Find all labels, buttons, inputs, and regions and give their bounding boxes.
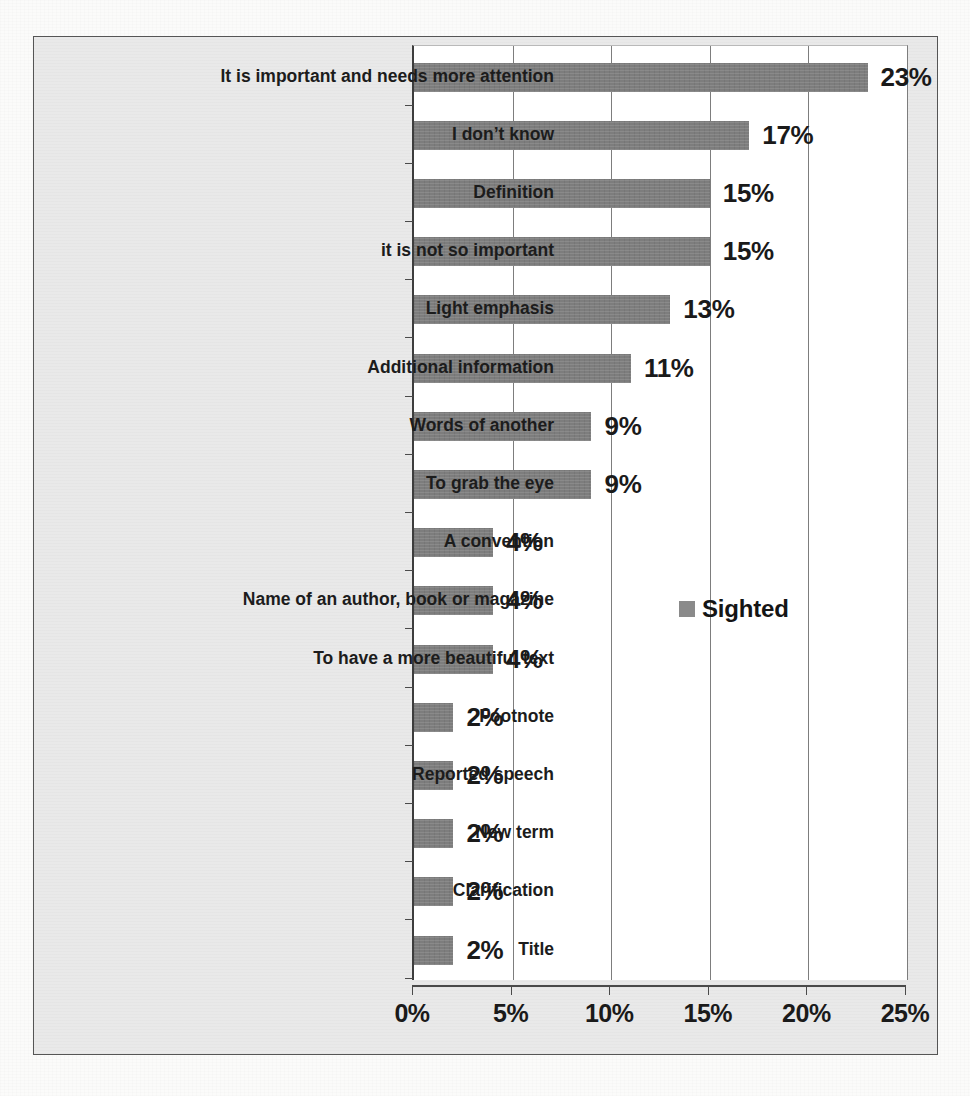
chart-legend: Sighted — [679, 595, 789, 623]
x-axis-tick-label: 25% — [860, 999, 950, 1028]
category-label: To have a more beautiful text — [194, 644, 554, 673]
category-label: Additional information — [194, 353, 554, 382]
bar-value-label: 11% — [644, 353, 694, 384]
category-label: Title — [194, 935, 554, 964]
bar-value-label: 9% — [604, 411, 641, 442]
x-axis-tick-label: 5% — [466, 999, 556, 1028]
y-axis-tick — [405, 803, 413, 804]
bar-value-label: 9% — [604, 469, 641, 500]
gridline-20% — [808, 46, 809, 980]
x-axis-tick — [609, 985, 610, 995]
category-label: Name of an author, book or magazine — [194, 585, 554, 614]
x-axis-tick — [806, 985, 807, 995]
category-label: New term — [194, 818, 554, 847]
y-axis-tick — [405, 163, 413, 164]
y-axis-tick — [405, 628, 413, 629]
category-label: Words of another — [194, 411, 554, 440]
y-axis-tick — [405, 512, 413, 513]
y-axis-tick — [405, 396, 413, 397]
y-axis-tick — [405, 978, 413, 979]
gridline-25% — [907, 46, 908, 980]
y-axis-tick — [405, 745, 413, 746]
chart-frame: It is important and needs more attention… — [33, 36, 938, 1055]
x-axis-tick-label: 10% — [564, 999, 654, 1028]
bar-value-label: 15% — [723, 236, 774, 267]
category-label: To grab the eye — [194, 469, 554, 498]
bar-value-label: 17% — [762, 120, 813, 151]
category-label: Reported speech — [194, 760, 554, 789]
y-axis-tick — [405, 221, 413, 222]
x-axis-tick — [412, 985, 413, 995]
x-axis-tick-label: 15% — [663, 999, 753, 1028]
y-axis-tick — [405, 570, 413, 571]
y-axis-tick — [405, 861, 413, 862]
category-label: Clarification — [194, 876, 554, 905]
y-axis-tick — [405, 337, 413, 338]
y-axis-tick — [405, 454, 413, 455]
legend-label-sighted: Sighted — [702, 595, 789, 623]
category-label: Definition — [194, 178, 554, 207]
category-label: It is important and needs more attention — [194, 62, 554, 91]
legend-swatch-sighted — [679, 601, 695, 617]
bar-value-label: 13% — [683, 294, 734, 325]
x-axis-tick — [708, 985, 709, 995]
bar-value-label: 23% — [881, 62, 932, 93]
y-axis-tick — [405, 919, 413, 920]
x-axis-tick — [511, 985, 512, 995]
x-axis-tick-label: 0% — [367, 999, 457, 1028]
y-axis-tick — [405, 279, 413, 280]
y-axis-tick — [405, 105, 413, 106]
category-label: Footnote — [194, 702, 554, 731]
x-axis-line — [412, 985, 906, 987]
y-axis-tick — [405, 687, 413, 688]
x-axis-tick-label: 20% — [761, 999, 851, 1028]
category-label: Light emphasis — [194, 294, 554, 323]
category-label: it is not so important — [194, 236, 554, 265]
bar-value-label: 15% — [723, 178, 774, 209]
x-axis-tick — [905, 985, 906, 995]
category-label: I don’t know — [194, 120, 554, 149]
category-label: A convention — [194, 527, 554, 556]
